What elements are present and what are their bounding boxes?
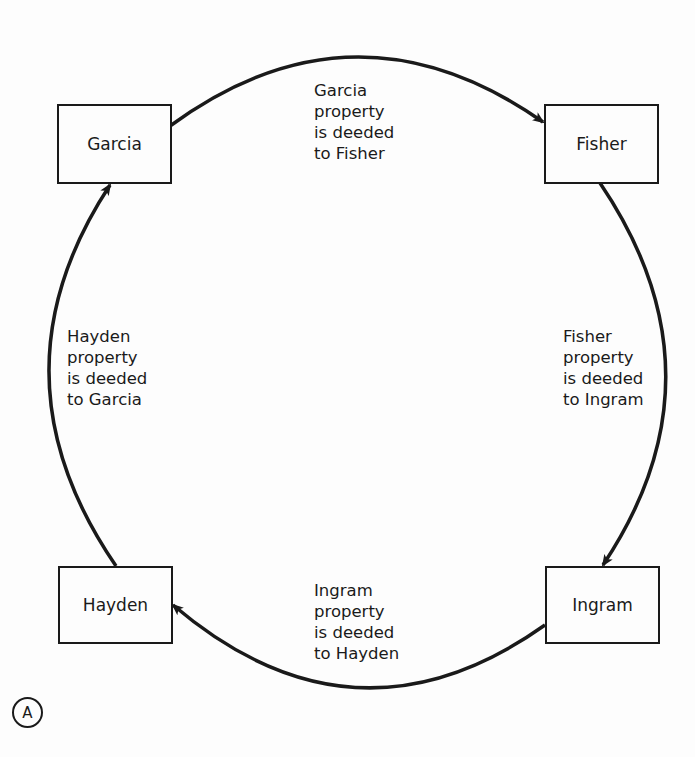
label-line: Ingram [314, 580, 399, 601]
label-line: Hayden [67, 326, 147, 347]
node-hayden: Hayden [58, 566, 173, 644]
label-line: to Hayden [314, 643, 399, 664]
node-label: Hayden [83, 595, 148, 615]
label-line: is deeded [314, 122, 394, 143]
label-line: to Ingram [563, 389, 644, 410]
label-line: property [67, 347, 147, 368]
label-line: is deeded [314, 622, 399, 643]
node-label: Ingram [572, 595, 633, 615]
label-line: property [314, 601, 399, 622]
label-line: is deeded [563, 368, 644, 389]
label-line: property [563, 347, 644, 368]
edge-label-hayden-to-garcia: Hayden property is deeded to Garcia [67, 326, 147, 410]
figure-marker-circle: A [12, 697, 43, 728]
node-label: Fisher [576, 134, 626, 154]
edge-label-fisher-to-ingram: Fisher property is deeded to Ingram [563, 326, 644, 410]
label-line: property [314, 101, 394, 122]
figure-marker-letter: A [22, 704, 32, 722]
edge-label-garcia-to-fisher: Garcia property is deeded to Fisher [314, 80, 394, 164]
label-line: Garcia [314, 80, 394, 101]
node-garcia: Garcia [57, 104, 172, 184]
node-fisher: Fisher [544, 104, 659, 184]
label-line: Fisher [563, 326, 644, 347]
node-label: Garcia [87, 134, 142, 154]
label-line: is deeded [67, 368, 147, 389]
node-ingram: Ingram [545, 566, 660, 644]
edge-label-ingram-to-hayden: Ingram property is deeded to Hayden [314, 580, 399, 664]
label-line: to Garcia [67, 389, 147, 410]
label-line: to Fisher [314, 143, 394, 164]
